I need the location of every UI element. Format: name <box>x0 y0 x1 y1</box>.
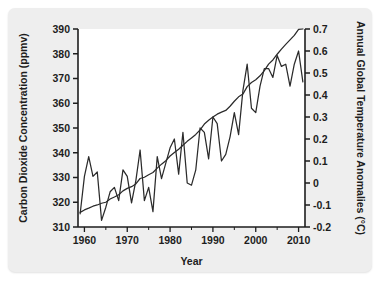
left-axis-tick-label: 340 <box>52 147 70 159</box>
x-axis-tick-label: 2010 <box>287 234 311 246</box>
left-axis-title: Carbon Dioxide Concentration (ppmv) <box>17 33 29 223</box>
x-axis-tick-label: 1970 <box>116 234 140 246</box>
right-axis-tick-label: 0 <box>313 177 319 189</box>
right-axis-tick-label: 0.5 <box>313 67 328 79</box>
x-axis-tick-label: 2000 <box>244 234 268 246</box>
x-axis-tick-label: 1960 <box>73 234 97 246</box>
chart-plot-area: 310320330340350360370380390-0.2-0.100.10… <box>8 8 372 272</box>
left-axis-tick-label: 370 <box>52 72 70 84</box>
left-axis-tick-label: 310 <box>52 221 70 233</box>
figure-card: 310320330340350360370380390-0.2-0.100.10… <box>8 8 372 272</box>
left-axis-tick-label: 350 <box>52 122 70 134</box>
climate-chart-svg: 310320330340350360370380390-0.2-0.100.10… <box>8 8 372 272</box>
left-axis-tick-label: 330 <box>52 171 70 183</box>
x-axis-tick-label: 1990 <box>201 234 225 246</box>
right-axis-title: Annual Global Temperature Anomalies (°C) <box>355 21 367 235</box>
right-axis-tick-label: 0.1 <box>313 155 328 167</box>
left-axis-tick-label: 360 <box>52 97 70 109</box>
right-axis-tick-label: 0.4 <box>313 89 328 101</box>
x-axis-tick-label: 1980 <box>158 234 182 246</box>
plot-background <box>78 29 305 227</box>
left-axis-tick-label: 320 <box>52 196 70 208</box>
right-axis-tick-label: -0.1 <box>313 199 331 211</box>
left-axis-tick-label: 380 <box>52 48 70 60</box>
right-axis-tick-label: 0.7 <box>313 23 328 35</box>
left-axis-tick-label: 390 <box>52 23 70 35</box>
right-axis-tick-label: 0.3 <box>313 111 328 123</box>
x-axis-title: Year <box>180 255 202 267</box>
right-axis-tick-label: 0.6 <box>313 45 328 57</box>
right-axis-tick-label: -0.2 <box>313 221 331 233</box>
right-axis-tick-label: 0.2 <box>313 133 328 145</box>
